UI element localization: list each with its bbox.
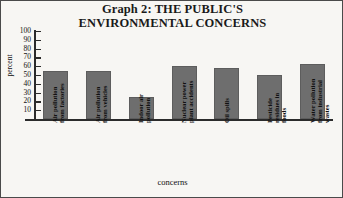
y-tick-label: 30 <box>1 89 31 97</box>
y-tick-label: 70 <box>1 53 31 61</box>
x-category-label: Indoor air pollution <box>137 71 151 123</box>
x-category-label: Nuclear power plant accidents <box>180 71 194 123</box>
x-category-label: Air pollution from factories <box>51 71 65 123</box>
y-tick-label: 60 <box>1 62 31 70</box>
y-tick-label: 100 <box>1 27 31 35</box>
chart-title-line-2: ENVIRONMENTAL CONCERNS <box>1 17 343 31</box>
y-tick-label: 80 <box>1 45 31 53</box>
y-tick-label: 10 <box>1 106 31 114</box>
chart-title: Graph 2: THE PUBLIC'S ENVIRONMENTAL CONC… <box>1 3 343 30</box>
y-tick-label: 90 <box>1 36 31 44</box>
x-axis-label: concerns <box>1 177 343 187</box>
chart-figure: Graph 2: THE PUBLIC'S ENVIRONMENTAL CONC… <box>0 0 343 198</box>
y-tick-label: 40 <box>1 80 31 88</box>
x-category-label: Air pollution from vehicles <box>94 71 108 123</box>
x-category-label: Oil spills <box>223 71 230 123</box>
x-category-label: Pesticide residues in foods <box>266 71 288 123</box>
chart-title-line-1: Graph 2: THE PUBLIC'S <box>102 2 243 16</box>
x-category-label: Water pollution from industrial wastes <box>309 71 331 123</box>
y-tick-label: 20 <box>1 97 31 105</box>
y-tick-label: 50 <box>1 71 31 79</box>
